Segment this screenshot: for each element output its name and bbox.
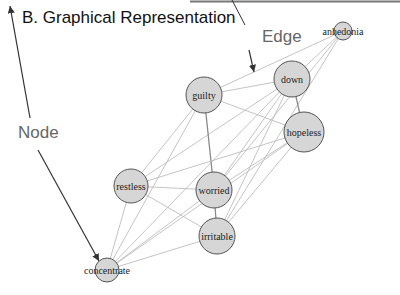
network-graph: anhedoniadownguiltyhopelessrestlessworri…: [0, 0, 400, 295]
node-label: restless: [116, 181, 146, 192]
edge-down-irritable: [217, 79, 292, 236]
node-guilty: guilty: [186, 77, 222, 113]
node-callout-arrow-down: [38, 150, 99, 261]
node-label: concentrate: [84, 265, 131, 276]
node-label: hopeless: [287, 127, 322, 138]
node-label: anhedonia: [322, 26, 364, 37]
edge-down-worried: [214, 79, 292, 190]
node-label: down: [281, 74, 303, 85]
node-label: irritable: [201, 231, 233, 242]
node-down: down: [274, 61, 310, 97]
node-hopeless: hopeless: [284, 112, 324, 152]
nodes-layer: anhedoniadownguiltyhopelessrestlessworri…: [84, 22, 364, 282]
node-irritable: irritable: [199, 218, 235, 254]
node-restless: restless: [114, 169, 148, 203]
edge-worried-concentrate: [107, 190, 214, 270]
node-label: guilty: [192, 90, 215, 101]
node-callout-label: Node: [18, 123, 59, 143]
edge-callout-label: Edge: [262, 27, 302, 47]
edge-callout-arrow: [249, 50, 254, 72]
node-worried: worried: [196, 172, 232, 208]
edge-anhedonia-worried: [214, 31, 343, 190]
node-label: worried: [198, 185, 229, 196]
node-concentrate: concentrate: [84, 258, 131, 282]
figure-title: B. Graphical Representation: [22, 8, 236, 28]
